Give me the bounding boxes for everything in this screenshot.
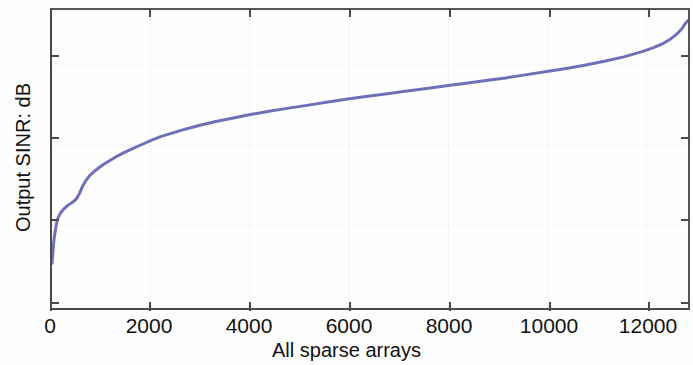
y-tick-mark-2-right (681, 302, 690, 304)
sinr-curve (52, 21, 688, 264)
x-tick-label-8000: 8000 (426, 314, 473, 338)
x-axis-title: All sparse arrays (0, 339, 693, 362)
x-tick-mark-4000 (249, 302, 251, 311)
x-tick-mark-10000 (549, 302, 551, 311)
y-tick-mark-6 (50, 137, 59, 139)
x-tick-mark-8000 (449, 302, 451, 311)
x-tick-label-4000: 4000 (226, 314, 273, 338)
plot-area (50, 8, 690, 310)
x-tick-mark-4000-top (249, 8, 251, 17)
plot-svg (52, 10, 688, 308)
x-tick-label-0: 0 (44, 314, 56, 338)
x-tick-mark-12000-top (648, 8, 650, 17)
y-tick-mark-8-right (681, 55, 690, 57)
gridlines-group (52, 10, 688, 308)
y-tick-mark-4 (50, 219, 59, 221)
y-tick-mark-6-right (681, 137, 690, 139)
x-tick-label-12000: 12000 (619, 314, 677, 338)
x-tick-label-2000: 2000 (126, 314, 173, 338)
x-tick-mark-12000 (648, 302, 650, 311)
x-tick-mark-8000-top (449, 8, 451, 17)
x-tick-mark-0 (50, 302, 52, 311)
x-tick-label-6000: 6000 (326, 314, 373, 338)
x-tick-label-10000: 10000 (520, 314, 578, 338)
x-tick-mark-10000-top (549, 8, 551, 17)
x-tick-mark-6000-top (349, 8, 351, 17)
x-tick-mark-2000-top (149, 8, 151, 17)
y-tick-mark-8 (50, 55, 59, 57)
x-tick-mark-6000 (349, 302, 351, 311)
y-axis-title: Output SINR: dB (12, 28, 35, 288)
figure-canvas: 2 4 6 8 0 2000 4000 6000 8000 10000 1200… (0, 0, 693, 365)
y-tick-mark-4-right (681, 219, 690, 221)
x-tick-mark-2000 (149, 302, 151, 311)
